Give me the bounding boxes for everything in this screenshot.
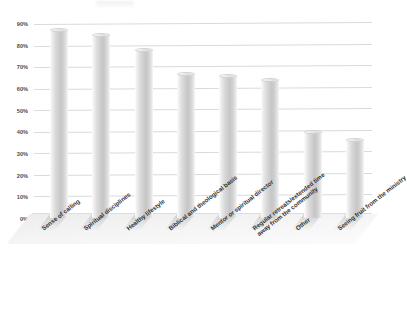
bar[interactable] (135, 50, 153, 218)
bar[interactable] (219, 76, 237, 218)
bar-body (92, 35, 110, 218)
scan-artifact (96, 1, 134, 9)
bar[interactable] (50, 30, 68, 218)
bar-cap (219, 74, 237, 78)
y-axis-tick-label: 30% (17, 151, 28, 157)
bar-body (177, 74, 195, 218)
bar-body (219, 76, 237, 218)
bar-cap (177, 72, 195, 76)
y-axis-tick-label: 20% (17, 173, 28, 179)
bar-cap (135, 48, 153, 52)
y-axis-tick-label: 50% (17, 108, 28, 114)
y-axis-tick-label: 80% (17, 43, 28, 49)
bar[interactable] (92, 35, 110, 218)
y-axis-tick-label: 70% (17, 64, 28, 70)
y-axis-tick-label: 60% (17, 86, 28, 92)
bar[interactable] (261, 80, 279, 218)
y-axis-tick-label: 10% (17, 194, 28, 200)
bar-cap (304, 130, 322, 134)
bar-cap (92, 33, 110, 37)
bar[interactable] (177, 74, 195, 218)
y-axis-tick-label: 40% (17, 129, 28, 135)
y-axis: 90%80%70%60%50%40%30%20%10%0% (0, 24, 30, 218)
chart-floor (7, 214, 378, 244)
bar-body (50, 30, 68, 218)
bar-body (261, 80, 279, 218)
bar-body (135, 50, 153, 218)
y-axis-tick-label: 90% (17, 21, 28, 27)
